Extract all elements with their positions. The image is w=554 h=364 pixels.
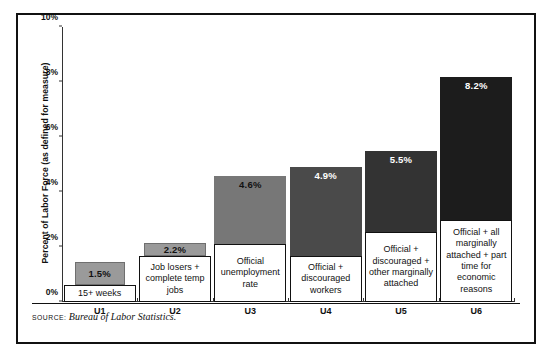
bar-value-segment: 1.5%: [64, 261, 136, 285]
bar-value-chip: 2.2%: [144, 243, 206, 257]
x-axis-tick-mark: [363, 298, 364, 302]
bar-description: Official + discouraged + other marginall…: [365, 232, 437, 302]
bar-description: Official + all marginally attached + par…: [440, 220, 512, 302]
bar-value-chip: 1.5%: [75, 262, 125, 285]
y-axis-tick-mark: [59, 191, 62, 192]
footer-divider: [32, 303, 520, 304]
bar-value-label: 4.9%: [314, 170, 336, 181]
bar-u3[interactable]: 4.6%Official unemployment rateU3: [214, 176, 286, 303]
bar-description: Job losers + complete temp jobs: [139, 256, 211, 302]
bar-description: Official unemployment rate: [214, 244, 286, 302]
y-axis-tick-label: 10%: [41, 12, 58, 22]
x-axis-tick-mark: [514, 298, 515, 302]
bar-u1[interactable]: 1.5%15+ weeksU1: [64, 261, 136, 302]
bar-u5[interactable]: 5.5%Official + discouraged + other margi…: [365, 151, 437, 302]
bar-value-label: 5.5%: [390, 154, 412, 165]
y-axis-tick-mark: [59, 246, 62, 247]
bar-value-segment: 5.5%: [365, 151, 437, 232]
bar-description: Official + discouraged workers: [290, 256, 362, 302]
x-axis-tick-label-u6: U6: [471, 306, 483, 316]
y-axis-tick-label: 8%: [46, 67, 58, 77]
source-label: Source:: [32, 314, 66, 321]
bar-value-label: 4.6%: [239, 179, 261, 190]
bar-value-segment: 8.2%: [440, 77, 512, 221]
y-axis-tick-mark: [59, 136, 62, 137]
x-axis-tick-label-u5: U5: [395, 306, 407, 316]
y-axis-tick-mark: [59, 26, 62, 27]
y-axis-tick-mark: [59, 81, 62, 82]
bar-value-label: 2.2%: [164, 244, 186, 255]
y-axis-tick-label: 4%: [46, 177, 58, 187]
x-axis-tick-mark: [439, 298, 440, 302]
bar-u6[interactable]: 8.2%Official + all marginally attached +…: [440, 77, 512, 303]
x-axis-tick-label-u4: U4: [320, 306, 332, 316]
bar-value-segment: 2.2%: [139, 242, 211, 257]
x-axis-tick-mark: [62, 298, 63, 302]
bar-value-label: 1.5%: [88, 268, 110, 279]
x-axis-tick-mark: [137, 298, 138, 302]
chart-frame: Percent of Labor Force (as defined for m…: [16, 13, 536, 344]
bar-value-label: 8.2%: [465, 80, 487, 91]
bar-value-segment: 4.6%: [214, 176, 286, 245]
y-axis-tick-label: 0%: [46, 287, 58, 297]
bar-description: 15+ weeks: [64, 285, 136, 302]
bar-u4[interactable]: 4.9%Official + discouraged workersU4: [290, 167, 362, 302]
y-axis-tick-label: 6%: [46, 122, 58, 132]
x-axis-tick-mark: [213, 298, 214, 302]
x-axis-tick-label-u3: U3: [245, 306, 257, 316]
y-axis-tick-label: 2%: [46, 232, 58, 242]
plot-area: 0%2%4%6%8%10% 1.5%15+ weeksU12.2%Job los…: [62, 27, 514, 310]
x-axis-tick-mark: [288, 298, 289, 302]
bar-value-segment: 4.9%: [290, 167, 362, 256]
source-note: Source: Bureau of Labor Statistics.: [32, 311, 176, 322]
bar-u2[interactable]: 2.2%Job losers + complete temp jobsU2: [139, 242, 211, 303]
source-text: Bureau of Labor Statistics.: [69, 311, 176, 322]
